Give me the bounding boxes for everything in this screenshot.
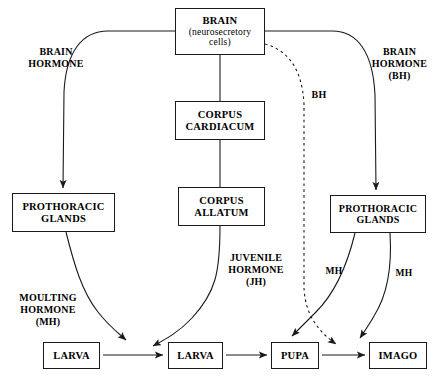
node-larva-1: LARVA — [43, 342, 100, 369]
hormone-flow-diagram: BRAIN (neurosecretory cells) CORPUS CARD… — [0, 0, 437, 380]
label-bh: BH — [306, 89, 332, 101]
node-brain-subtitle: (neurosecretory cells) — [189, 27, 252, 48]
edge-prothoracic-right-to-imago — [360, 233, 390, 338]
label-mh-left: MH — [322, 266, 346, 277]
node-prothoracic-glands-right-label: PROTHORACIC GLANDS — [339, 203, 417, 225]
label-mh-right: MH — [392, 268, 416, 279]
node-corpus-allatum-label: CORPUS ALLATUM — [194, 195, 248, 219]
label-brain-hormone-left: BRAIN HORMONE — [14, 46, 98, 70]
node-corpus-cardiacum-label: CORPUS CARDIACUM — [186, 109, 255, 133]
node-prothoracic-glands-right: PROTHORACIC GLANDS — [330, 195, 426, 233]
node-prothoracic-glands-left: PROTHORACIC GLANDS — [12, 193, 115, 232]
node-pupa-label: PUPA — [281, 350, 309, 362]
node-larva-2: LARVA — [168, 342, 223, 369]
edge-prothoracic-right-to-pupa — [292, 233, 355, 336]
edge-corpus-allatum-to-larva-2 — [153, 226, 220, 346]
node-imago-label: IMAGO — [379, 350, 418, 362]
label-moulting-hormone: MOULTING HORMONE (MH) — [8, 292, 88, 327]
label-juvenile-hormone: JUVENILE HORMONE (JH) — [218, 252, 294, 287]
node-corpus-cardiacum: CORPUS CARDIACUM — [175, 101, 265, 140]
node-corpus-allatum: CORPUS ALLATUM — [178, 187, 265, 226]
node-brain: BRAIN (neurosecretory cells) — [175, 8, 265, 55]
node-larva-2-label: LARVA — [177, 350, 214, 362]
node-brain-title: BRAIN — [189, 15, 252, 27]
node-pupa: PUPA — [271, 342, 319, 369]
edge-brain-to-prothoracic-right — [264, 31, 376, 190]
node-prothoracic-glands-left-label: PROTHORACIC GLANDS — [22, 201, 104, 225]
node-larva-1-label: LARVA — [53, 350, 90, 362]
node-imago: IMAGO — [369, 342, 427, 369]
label-brain-hormone-right: BRAIN HORMONE (BH) — [362, 46, 437, 81]
